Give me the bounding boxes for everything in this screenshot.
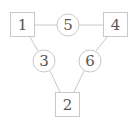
edge-4-6 <box>96 37 107 51</box>
node-3-label: 3 <box>39 52 49 70</box>
triangle-diagram: 1 5 4 3 6 2 <box>0 0 134 124</box>
node-4: 4 <box>104 13 128 37</box>
node-1: 1 <box>11 13 35 37</box>
node-2-label: 2 <box>63 96 73 114</box>
node-6: 6 <box>79 50 101 72</box>
node-3: 3 <box>33 50 55 72</box>
node-1-label: 1 <box>18 16 28 34</box>
edge-3-2 <box>50 71 60 92</box>
node-5: 5 <box>57 14 79 36</box>
node-2: 2 <box>56 93 80 117</box>
edge-1-3 <box>30 37 38 51</box>
node-6-label: 6 <box>85 52 95 70</box>
edge-6-2 <box>74 71 84 92</box>
node-5-label: 5 <box>63 16 73 34</box>
node-4-label: 4 <box>111 16 121 34</box>
